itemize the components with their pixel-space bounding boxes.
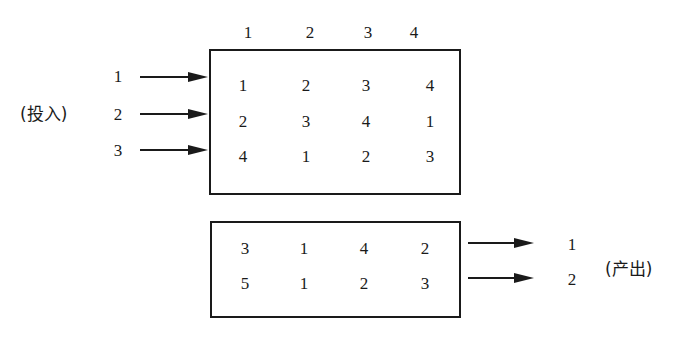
output-cell: 3 [235, 239, 255, 259]
output-matrix-box [210, 221, 461, 318]
output-label: (产出) [605, 259, 652, 279]
output-row-1-label: 1 [562, 235, 582, 255]
output-cell: 1 [294, 274, 314, 294]
input-arrow-3-icon [140, 144, 208, 156]
output-cell: 1 [294, 239, 314, 259]
column-header-2: 2 [300, 23, 320, 43]
output-cell: 2 [415, 239, 435, 259]
input-cell: 2 [233, 112, 253, 132]
output-cell: 5 [235, 274, 255, 294]
input-cell: 1 [296, 147, 316, 167]
output-row-2-label: 2 [562, 270, 582, 290]
column-header-1: 1 [238, 23, 258, 43]
input-cell: 1 [420, 112, 440, 132]
input-cell: 3 [420, 147, 440, 167]
input-cell: 2 [356, 147, 376, 167]
output-arrow-2-icon [468, 272, 534, 284]
column-header-3: 3 [358, 23, 378, 43]
column-header-4: 4 [404, 23, 424, 43]
output-arrow-1-icon [468, 237, 534, 249]
input-cell: 4 [420, 76, 440, 96]
input-cell: 3 [356, 76, 376, 96]
output-cell: 4 [354, 239, 374, 259]
input-label: (投入) [20, 104, 67, 124]
input-arrow-1-icon [140, 71, 208, 83]
input-cell: 4 [356, 112, 376, 132]
input-row-2-label: 2 [108, 105, 128, 125]
input-row-1-label: 1 [108, 67, 128, 87]
output-cell: 3 [415, 274, 435, 294]
input-cell: 3 [296, 112, 316, 132]
input-row-3-label: 3 [108, 141, 128, 161]
input-cell: 1 [233, 76, 253, 96]
input-cell: 2 [296, 76, 316, 96]
output-cell: 2 [354, 274, 374, 294]
input-arrow-2-icon [140, 108, 208, 120]
input-cell: 4 [233, 147, 253, 167]
